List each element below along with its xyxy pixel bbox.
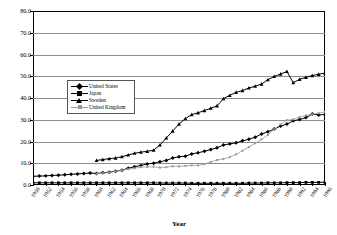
x-tick-label: 1956 bbox=[67, 186, 78, 199]
data-point bbox=[254, 182, 257, 185]
x-tick-label: 1962 bbox=[105, 186, 116, 199]
data-point bbox=[134, 167, 136, 169]
x-tick-label: 1964 bbox=[118, 186, 129, 199]
data-point bbox=[95, 173, 97, 175]
data-point bbox=[165, 166, 167, 168]
x-tick-label: 1996 bbox=[321, 186, 332, 199]
x-tick-label: 1952 bbox=[42, 186, 53, 199]
data-point bbox=[247, 137, 251, 141]
x-tick-mark bbox=[33, 182, 34, 186]
data-point bbox=[115, 170, 117, 172]
legend-item-united-states: United States bbox=[71, 83, 131, 90]
chart-legend: United States Japan Sweden United Kingdo… bbox=[67, 80, 135, 114]
y-tick-label: 20.0 bbox=[3, 139, 31, 145]
data-point bbox=[254, 142, 256, 144]
data-point bbox=[165, 182, 168, 185]
x-tick-mark bbox=[249, 182, 250, 186]
data-point bbox=[285, 122, 289, 126]
data-point bbox=[261, 138, 263, 140]
data-point bbox=[280, 123, 282, 125]
data-point bbox=[234, 141, 238, 145]
x-tick-label: 1966 bbox=[131, 186, 142, 199]
data-point bbox=[63, 173, 67, 177]
x-axis-title: Year bbox=[33, 220, 325, 228]
data-point bbox=[127, 181, 130, 184]
data-point bbox=[145, 162, 149, 166]
y-tick-label: 10.0 bbox=[3, 160, 31, 166]
legend-marker-triangle-icon bbox=[71, 97, 88, 104]
data-point bbox=[82, 171, 86, 175]
x-tick-label: 1988 bbox=[270, 186, 281, 199]
data-point bbox=[241, 150, 243, 152]
y-tick-label: 60.0 bbox=[3, 52, 31, 58]
x-tick-label: 1984 bbox=[245, 186, 256, 199]
data-point bbox=[127, 168, 129, 170]
data-point bbox=[292, 118, 294, 120]
data-point bbox=[222, 158, 224, 160]
data-point bbox=[266, 181, 269, 184]
data-point bbox=[292, 181, 295, 184]
x-tick-mark bbox=[46, 182, 47, 186]
data-point bbox=[203, 163, 205, 165]
data-point bbox=[44, 174, 48, 178]
data-point bbox=[298, 118, 302, 122]
data-point bbox=[89, 181, 92, 184]
legend-item-united-kingdom: United Kingdom bbox=[71, 104, 131, 111]
data-point bbox=[152, 181, 155, 184]
x-tick-mark bbox=[211, 182, 212, 186]
legend-label: Japan bbox=[89, 90, 101, 96]
data-point bbox=[324, 111, 325, 113]
data-point bbox=[229, 156, 231, 158]
series-united-states bbox=[33, 112, 325, 178]
data-point bbox=[172, 165, 174, 167]
data-point bbox=[235, 153, 237, 155]
data-point bbox=[76, 181, 79, 184]
x-tick-mark bbox=[135, 182, 136, 186]
x-tick-label: 1974 bbox=[181, 186, 192, 199]
data-point bbox=[75, 172, 79, 176]
data-point bbox=[63, 181, 66, 184]
data-point bbox=[101, 181, 104, 184]
x-tick-label: 1954 bbox=[54, 186, 65, 199]
chart-figure: Out of Wedlock as Percentage of All Birt… bbox=[0, 0, 337, 235]
x-tick-mark bbox=[236, 182, 237, 186]
legend-marker-square-icon bbox=[71, 90, 88, 97]
data-point bbox=[279, 181, 282, 184]
data-point bbox=[152, 161, 156, 165]
data-point bbox=[37, 174, 41, 178]
x-tick-label: 1972 bbox=[169, 186, 180, 199]
data-point bbox=[178, 182, 181, 185]
data-point bbox=[228, 142, 232, 146]
data-point bbox=[121, 169, 123, 171]
data-point bbox=[183, 154, 187, 158]
data-point bbox=[88, 171, 92, 175]
data-point bbox=[108, 171, 110, 173]
data-point bbox=[266, 130, 270, 134]
x-tick-mark bbox=[274, 182, 275, 186]
data-point bbox=[216, 182, 219, 185]
series-japan bbox=[33, 181, 325, 185]
data-point bbox=[114, 181, 117, 184]
legend-label: Sweden bbox=[89, 97, 106, 103]
legend-item-sweden: Sweden bbox=[71, 97, 131, 104]
y-tick-label: 0.0 bbox=[3, 182, 31, 188]
data-point bbox=[153, 166, 155, 168]
series-united-kingdom bbox=[95, 111, 325, 175]
data-point bbox=[33, 174, 35, 178]
data-point bbox=[196, 151, 200, 155]
data-point bbox=[221, 143, 225, 147]
data-point bbox=[241, 139, 245, 143]
data-point bbox=[56, 173, 60, 177]
data-point bbox=[140, 166, 142, 168]
y-tick-label: 80.0 bbox=[3, 8, 31, 14]
data-point bbox=[311, 113, 313, 115]
x-tick-label: 1992 bbox=[296, 186, 307, 199]
legend-label: United Kingdom bbox=[89, 104, 125, 110]
data-point bbox=[177, 155, 181, 159]
legend-label: United States bbox=[89, 83, 118, 89]
y-axis-ticks: 80.070.060.050.040.030.020.010.00.0 bbox=[0, 0, 31, 235]
data-point bbox=[323, 113, 325, 117]
data-point bbox=[228, 182, 231, 185]
x-tick-mark bbox=[223, 182, 224, 186]
data-point bbox=[159, 167, 161, 169]
